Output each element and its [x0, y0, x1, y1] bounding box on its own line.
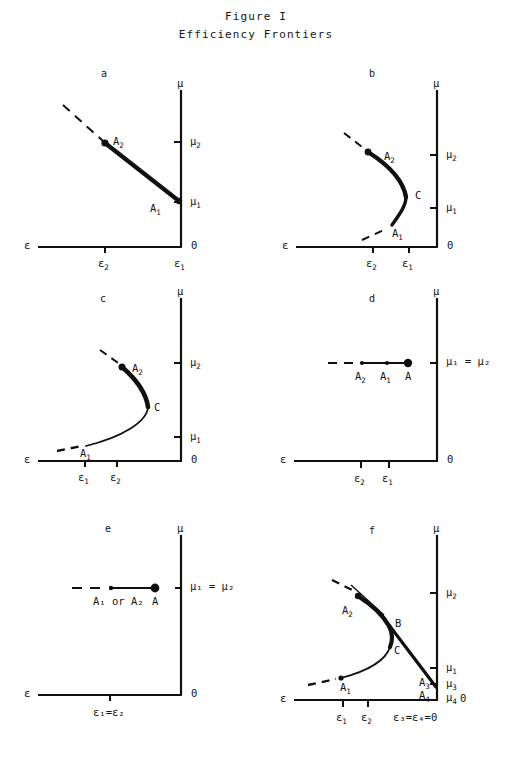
panel-f-point-label-A3: A3: [419, 677, 430, 688]
panel-f-plot: [256, 505, 512, 758]
panel-c-xtick-label-eps2: ε2: [110, 472, 121, 483]
panel-f-axis-label-mu: μ: [433, 523, 439, 534]
panel-f-frontier-A2-B: [358, 596, 389, 626]
panel-b-point-label-A2: A2: [384, 151, 395, 162]
figure-title-line1: Figure I: [0, 10, 512, 23]
panel-b: b μ ε 0 μ2 μ1 ε2 ε1 A2 C A1: [256, 60, 512, 285]
panel-e-point-A: [151, 584, 160, 593]
panel-d-axis-label-epsilon: ε: [280, 454, 286, 465]
panel-b-dashed-lower: [362, 230, 384, 240]
panel-f: f μ ε 0 μ2 μ1 μ3 μ4 ε1 ε2 ε₃=ε₄=0 A2 B C…: [256, 505, 512, 758]
panel-c-point-A2: [119, 364, 126, 371]
panel-e-point-label-A: A: [152, 596, 158, 607]
panel-d-point-label-A: A: [405, 371, 411, 382]
panel-b-frontier-lower: [392, 197, 406, 225]
panel-a-axis-label-epsilon: ε: [24, 240, 30, 251]
panel-f-point-label-A4: A4: [419, 690, 430, 701]
panel-b-origin-label: 0: [447, 240, 453, 251]
panel-b-point-label-C: C: [415, 190, 421, 201]
panel-f-ytick-label-mu4: μ4: [446, 692, 457, 703]
panel-f-point-A2: [355, 593, 361, 599]
panel-d-point-label-A2: A2: [355, 371, 366, 382]
panel-f-ytick-label-mu1: μ1: [446, 662, 457, 673]
panel-d-axis-label-mu: μ: [433, 286, 439, 297]
panel-c-point-label-A1: A1: [80, 448, 91, 459]
panel-b-ytick-label-mu2: μ2: [446, 149, 457, 160]
panel-c-ytick-label-mu1: μ1: [190, 431, 201, 442]
panel-c-xtick-label-eps1: ε1: [78, 472, 89, 483]
panel-f-point-label-C: C: [394, 645, 400, 656]
panel-f-xtick-label-eps2: ε2: [361, 712, 372, 723]
panel-c-point-label-C: C: [154, 402, 160, 413]
panel-f-xtick-label-eps3-eps4: ε₃=ε₄=0: [393, 712, 437, 723]
panel-c-axis-label-mu: μ: [177, 286, 183, 297]
panel-a-xtick-label-eps1: ε1: [174, 258, 185, 269]
panel-c-point-label-A2: A2: [132, 363, 143, 374]
panel-f-frontier-C-A1: [341, 647, 390, 678]
panel-a-xtick-label-eps2: ε2: [98, 258, 109, 269]
panel-a-point-A2: [101, 139, 108, 146]
panel-d-ytick-label-mu-equal: μ₁ = μ₂: [446, 356, 490, 367]
panel-b-axis-label-mu: μ: [433, 78, 439, 89]
panel-e-point-left: [109, 586, 113, 590]
panel-b-ytick-label-mu1: μ1: [446, 202, 457, 213]
panel-c-dashed-upper: [100, 350, 121, 365]
panel-b-point-A2: [365, 149, 372, 156]
panel-e: e μ ε 0 μ₁ = μ₂ ε₁=ε₂ A₁ or A₂ A: [0, 505, 256, 758]
panel-e-origin-label: 0: [191, 688, 197, 699]
panel-a-axis-label-mu: μ: [177, 78, 183, 89]
panel-f-axis-label-epsilon: ε: [280, 693, 286, 704]
panel-a-ytick-label-mu1: μ1: [190, 196, 201, 207]
panel-c-frontier-thin: [86, 407, 148, 446]
panel-f-point-label-A1: A1: [340, 682, 351, 693]
panel-d: d μ ε 0 μ₁ = μ₂ ε2 ε1 A2 A1 A: [256, 285, 512, 510]
panel-c: c μ ε 0 μ2 μ1 ε1 ε2 A2 C A1: [0, 285, 256, 510]
panel-d-xtick-label-eps2: ε2: [354, 473, 365, 484]
panel-d-xtick-label-eps1: ε1: [382, 473, 393, 484]
panel-f-ytick-label-mu3: μ3: [446, 678, 457, 689]
panel-d-point-A1: [385, 361, 389, 365]
panel-a-dashed-extension: [63, 105, 103, 141]
panel-d-point-A2: [360, 361, 364, 365]
panel-f-point-A1: [338, 675, 343, 680]
panel-e-ytick-label-mu-equal: μ₁ = μ₂: [190, 581, 234, 592]
panel-b-axis-label-epsilon: ε: [282, 240, 288, 251]
panel-a-point-label-A1: A1: [150, 203, 161, 214]
panel-f-dashed-lower: [308, 679, 336, 685]
panel-e-axis-label-mu: μ: [177, 523, 183, 534]
panel-f-ytick-label-mu2: μ2: [446, 587, 457, 598]
panel-c-origin-label: 0: [191, 454, 197, 465]
panel-c-ytick-label-mu2: μ2: [190, 357, 201, 368]
panel-b-point-label-A1: A1: [392, 228, 403, 239]
panel-b-xtick-label-eps2: ε2: [366, 258, 377, 269]
panel-e-plot: [0, 505, 256, 758]
panel-a-point-label-A2: A2: [113, 136, 124, 147]
panel-a-frontier: [105, 143, 179, 201]
panel-e-xtick-label-eps-equal: ε₁=ε₂: [93, 707, 125, 718]
panel-f-xtick-label-eps1: ε1: [336, 712, 347, 723]
panel-a-ytick-label-mu2: μ2: [190, 136, 201, 147]
panel-e-axis-label-epsilon: ε: [24, 688, 30, 699]
panel-a: a μ ε 0 μ2 μ1 ε2 ε1 A2 A1: [0, 60, 256, 285]
panel-d-point-A: [404, 359, 412, 367]
panel-c-plot: [0, 285, 256, 510]
panel-a-point-A1: [176, 198, 182, 204]
panel-c-dashed-lower: [57, 446, 82, 451]
panel-f-point-label-A2: A2: [342, 605, 353, 616]
panel-a-plot: [0, 60, 256, 285]
panel-e-point-label-A1-or-A2: A₁ or A₂: [93, 596, 144, 607]
panel-d-point-label-A1: A1: [380, 371, 391, 382]
panel-f-origin-label: 0: [460, 693, 466, 704]
panel-b-xtick-label-eps1: ε1: [402, 258, 413, 269]
panel-c-axis-label-epsilon: ε: [24, 454, 30, 465]
panel-b-plot: [256, 60, 512, 285]
panel-a-origin-label: 0: [191, 240, 197, 251]
panel-d-origin-label: 0: [447, 454, 453, 465]
panel-b-dashed-upper: [344, 133, 366, 150]
panel-f-point-label-B: B: [395, 618, 401, 629]
figure-subtitle-line2: Efficiency Frontiers: [0, 28, 512, 41]
